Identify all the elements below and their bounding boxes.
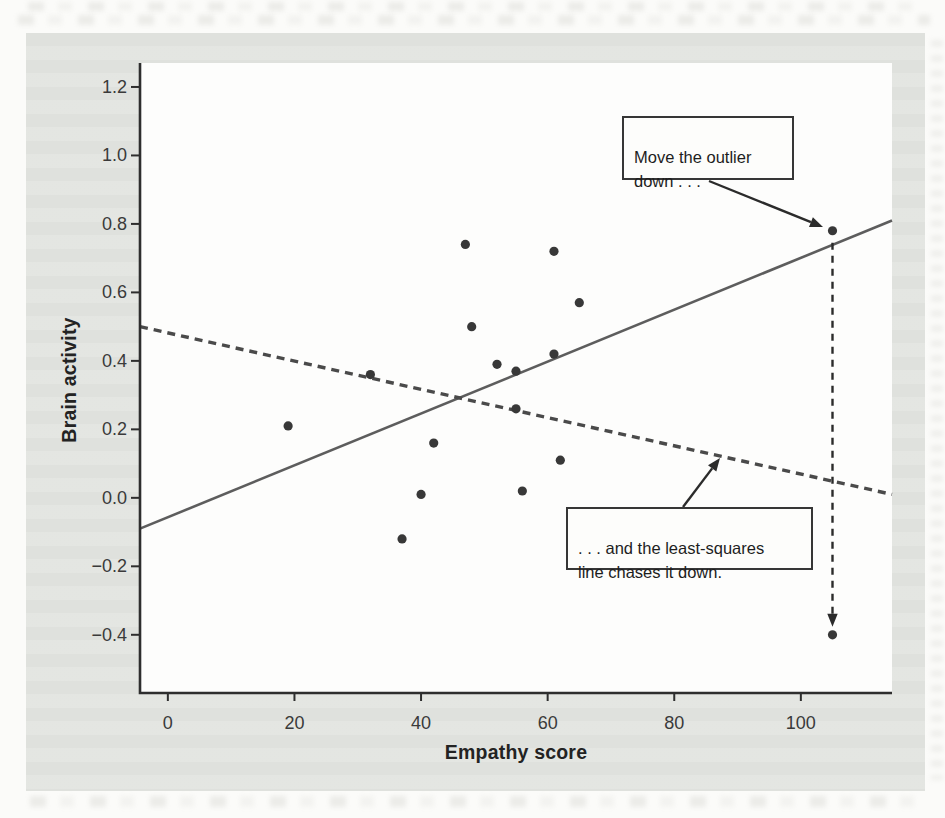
data-point bbox=[492, 360, 501, 369]
annotation-line-chases: . . . and the least-squares line chases … bbox=[566, 507, 813, 570]
x-axis-tick-label: 40 bbox=[411, 713, 431, 733]
y-axis-tick-label: 0.4 bbox=[102, 351, 127, 371]
data-point bbox=[518, 486, 527, 495]
y-axis-tick-label: 0.6 bbox=[102, 282, 127, 302]
scatter-chart: 0204060801001.21.00.80.60.40.20.0−0.2−0.… bbox=[0, 0, 945, 818]
y-axis-tick-label: −0.4 bbox=[91, 625, 127, 645]
y-axis-tick-label: 0.0 bbox=[102, 488, 127, 508]
data-point bbox=[575, 298, 584, 307]
y-axis-tick-label: −0.2 bbox=[91, 556, 127, 576]
y-axis-tick-label: 0.8 bbox=[102, 214, 127, 234]
data-point bbox=[549, 247, 558, 256]
data-point bbox=[511, 367, 520, 376]
book-page: 0204060801001.21.00.80.60.40.20.0−0.2−0.… bbox=[0, 0, 945, 818]
data-point bbox=[284, 421, 293, 430]
data-point bbox=[511, 404, 520, 413]
x-axis-tick-label: 20 bbox=[284, 713, 304, 733]
y-axis-tick-label: 1.2 bbox=[102, 77, 127, 97]
x-axis-tick-label: 100 bbox=[786, 713, 816, 733]
y-axis-tick-label: 1.0 bbox=[102, 145, 127, 165]
y-axis-tick-label: 0.2 bbox=[102, 419, 127, 439]
y-axis-title: Brain activity bbox=[58, 317, 81, 442]
x-axis-tick-label: 0 bbox=[163, 713, 173, 733]
x-axis-tick-label: 80 bbox=[664, 713, 684, 733]
outlier-point bbox=[828, 226, 837, 235]
data-point bbox=[416, 490, 425, 499]
data-point bbox=[467, 322, 476, 331]
x-axis-title: Empathy score bbox=[445, 741, 587, 764]
data-point bbox=[429, 438, 438, 447]
data-point bbox=[461, 240, 470, 249]
data-point bbox=[366, 370, 375, 379]
x-axis-tick-label: 60 bbox=[538, 713, 558, 733]
data-point bbox=[556, 456, 565, 465]
annotation-move-outlier: Move the outlier down . . . bbox=[622, 116, 794, 180]
data-point bbox=[397, 534, 406, 543]
moved-outlier-point bbox=[828, 630, 837, 639]
data-point bbox=[549, 349, 558, 358]
